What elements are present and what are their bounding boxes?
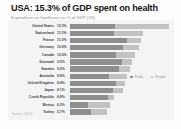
bar-segment-private bbox=[119, 66, 130, 71]
chart-legend: Public Private bbox=[130, 75, 165, 79]
bar-value-label: 11.0% bbox=[57, 37, 70, 44]
bar-category-label: United States bbox=[8, 23, 57, 30]
stacked-bar[interactable] bbox=[70, 66, 130, 71]
bar-segment-private bbox=[115, 24, 170, 29]
bar-category-label: Sweden bbox=[8, 66, 57, 73]
page-title: USA: 15.3% of GDP spent on health bbox=[11, 3, 181, 13]
bar-category-label: France bbox=[8, 37, 57, 44]
bar-category-label: Germany bbox=[8, 44, 57, 51]
bar-category-label: Canada bbox=[8, 52, 57, 59]
bar-value-label: 10.0% bbox=[57, 52, 70, 59]
bar-row[interactable]: Sweden9.2% bbox=[8, 66, 174, 73]
stacked-bar[interactable] bbox=[70, 88, 123, 93]
bar-value-label: 9.2% bbox=[57, 66, 70, 73]
chart-canvas: United States15.3%Switzerland11.3%France… bbox=[8, 20, 174, 120]
stacked-bar[interactable] bbox=[70, 45, 139, 50]
bar-row[interactable]: Canada10.0% bbox=[8, 52, 174, 59]
bar-row[interactable]: United Kingdom8.4% bbox=[8, 80, 174, 87]
bar-value-label: 15.3% bbox=[57, 23, 70, 30]
legend-item-public[interactable]: Public bbox=[130, 75, 144, 79]
bar-value-label: 9.5% bbox=[57, 59, 70, 66]
legend-item-private[interactable]: Private bbox=[151, 75, 166, 79]
legend-label-private: Private bbox=[155, 75, 165, 79]
bar-category-label: Mexico bbox=[8, 102, 57, 109]
bar-segment-private bbox=[88, 102, 110, 107]
bar-segment-public bbox=[70, 31, 114, 36]
bar-value-label: 5.7% bbox=[57, 109, 70, 116]
bar-category-label: Czech Republic bbox=[8, 94, 57, 101]
bar-row[interactable]: Czech Republic6.8% bbox=[8, 94, 174, 101]
bar-row[interactable]: Japan8.1% bbox=[8, 87, 174, 94]
bar-segment-private bbox=[109, 74, 127, 79]
bar-category-label: Japan bbox=[8, 87, 57, 94]
bar-segment-private bbox=[113, 88, 123, 93]
stacked-bar[interactable] bbox=[70, 24, 169, 29]
legend-swatch-private-icon bbox=[151, 76, 154, 79]
stacked-bar[interactable] bbox=[70, 95, 114, 100]
bar-row[interactable]: Switzerland11.3% bbox=[8, 30, 174, 37]
bar-row[interactable]: Germany10.6% bbox=[8, 44, 174, 51]
bar-row[interactable]: Turkey5.7% bbox=[8, 109, 174, 116]
bar-category-label: United Kingdom bbox=[8, 80, 57, 87]
bar-row[interactable]: Denmark9.5% bbox=[8, 59, 174, 66]
bar-segment-public bbox=[70, 109, 91, 114]
bar-segment-public bbox=[70, 102, 88, 107]
bar-segment-private bbox=[116, 81, 124, 86]
bar-row[interactable]: Mexico6.2% bbox=[8, 102, 174, 109]
bar-category-label: Denmark bbox=[8, 59, 57, 66]
stacked-bar[interactable] bbox=[70, 38, 141, 43]
stacked-bar[interactable] bbox=[70, 31, 143, 36]
bar-value-label: 8.8% bbox=[57, 73, 70, 80]
bar-rows: United States15.3%Switzerland11.3%France… bbox=[8, 23, 174, 116]
bar-value-label: 8.4% bbox=[57, 80, 70, 87]
bar-segment-private bbox=[127, 38, 142, 43]
source-note: Source: OECD bbox=[12, 112, 32, 116]
bar-value-label: 10.6% bbox=[57, 44, 70, 51]
bar-segment-public bbox=[70, 38, 127, 43]
legend-label-public: Public bbox=[135, 75, 144, 79]
bar-segment-private bbox=[91, 109, 107, 114]
bar-value-label: 11.3% bbox=[57, 30, 70, 37]
stacked-bar[interactable] bbox=[70, 74, 127, 79]
stacked-bar[interactable] bbox=[70, 59, 132, 64]
bar-value-label: 6.2% bbox=[57, 102, 70, 109]
bar-segment-public bbox=[70, 74, 109, 79]
stacked-bar[interactable] bbox=[70, 102, 110, 107]
stacked-bar[interactable] bbox=[70, 81, 125, 86]
bar-segment-private bbox=[116, 52, 136, 57]
stacked-bar[interactable] bbox=[70, 52, 135, 57]
bar-segment-private bbox=[114, 31, 143, 36]
chart-page: USA: 15.3% of GDP spent on health Expend… bbox=[0, 0, 181, 129]
bar-segment-private bbox=[123, 45, 139, 50]
bar-segment-public bbox=[70, 52, 116, 57]
bar-segment-public bbox=[70, 66, 119, 71]
bar-segment-private bbox=[108, 95, 115, 100]
chart-header: USA: 15.3% of GDP spent on health Expend… bbox=[0, 0, 181, 20]
bar-segment-public bbox=[70, 81, 116, 86]
stacked-bar[interactable] bbox=[70, 109, 107, 114]
bar-segment-public bbox=[70, 45, 123, 50]
bar-category-label: Australia bbox=[8, 73, 57, 80]
bar-segment-public bbox=[70, 88, 113, 93]
legend-swatch-public-icon bbox=[130, 76, 133, 79]
bar-row[interactable]: France11.0% bbox=[8, 37, 174, 44]
bar-segment-private bbox=[122, 59, 132, 64]
bar-category-label: Switzerland bbox=[8, 30, 57, 37]
bar-value-label: 6.8% bbox=[57, 94, 70, 101]
bar-segment-public bbox=[70, 24, 115, 29]
bar-value-label: 8.1% bbox=[57, 87, 70, 94]
bar-segment-public bbox=[70, 95, 108, 100]
bar-row[interactable]: United States15.3% bbox=[8, 23, 174, 30]
bar-segment-public bbox=[70, 59, 122, 64]
